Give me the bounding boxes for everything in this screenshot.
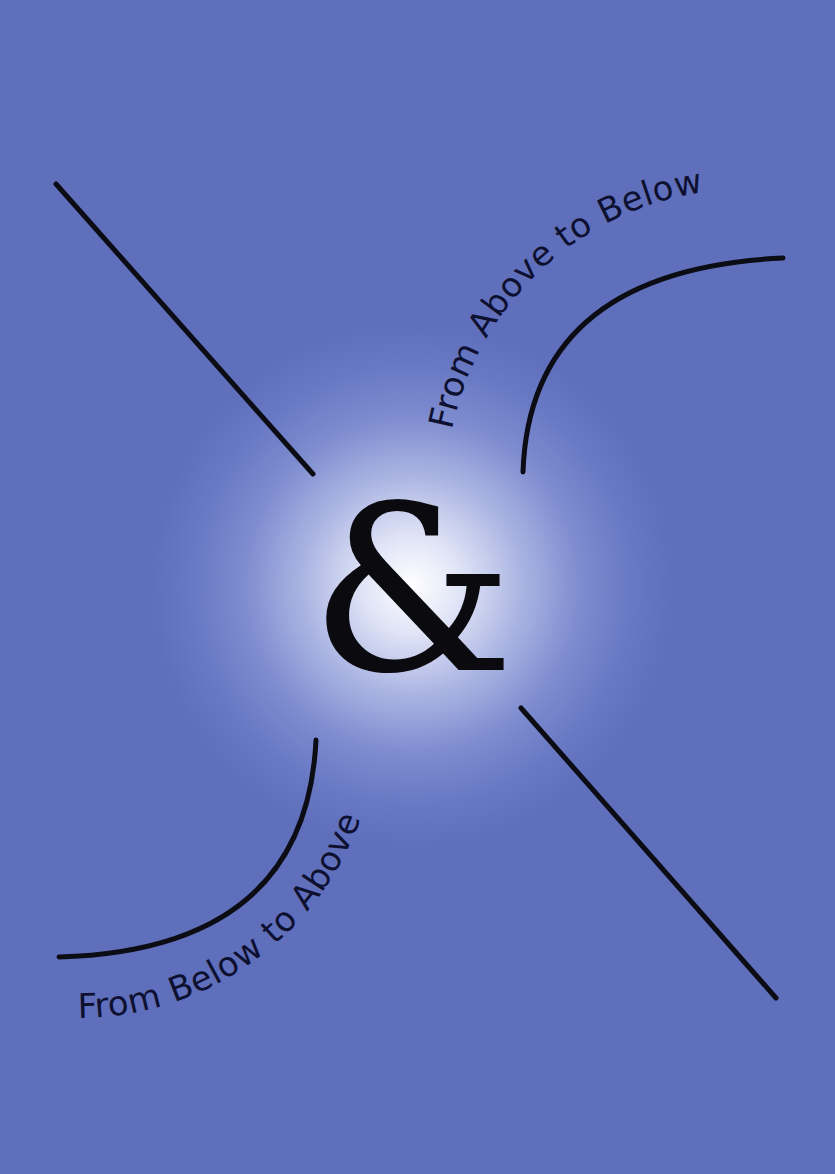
- arc-top-right: [523, 258, 783, 472]
- diagonal-line-bottom-right: [521, 708, 776, 998]
- poster: From Above to Below From Below to Above …: [0, 0, 835, 1174]
- caption-top-right: From Above to Below: [421, 160, 706, 432]
- ampersand-symbol: &: [310, 457, 515, 724]
- diagonal-line-top-left: [56, 184, 313, 474]
- poster-artwork: From Above to Below From Below to Above …: [0, 0, 835, 1174]
